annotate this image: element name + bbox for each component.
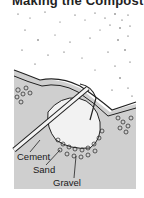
label-cement: Cement — [17, 151, 50, 162]
label-sand: Sand — [33, 164, 55, 175]
label-gravel: Gravel — [53, 177, 81, 188]
cross-section-illustration — [0, 0, 144, 198]
